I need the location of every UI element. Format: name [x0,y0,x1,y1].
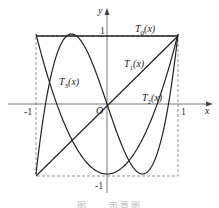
t3-arg: (x) [68,76,79,87]
t1-label: T1(x) [124,59,144,72]
t1-arg: (x) [133,58,144,69]
t2-label: T2(x) [142,93,162,106]
t2-arg: (x) [151,92,162,103]
t3-label: T3(x) [59,77,79,90]
chebyshev-plot [0,0,219,208]
y-tick-1: 1 [100,26,105,36]
x-axis-label: x [205,106,209,116]
t0-label: T0(x) [135,24,155,37]
y-tick-neg1: -1 [95,181,103,191]
y-axis-arrow-icon [105,8,110,15]
origin-label: O [96,106,103,116]
figure-caption: 图 … 示意图 [0,199,219,208]
x-tick-neg1: -1 [24,107,32,117]
x-tick-1: 1 [181,107,186,117]
y-axis-label: y [98,6,102,16]
t0-arg: (x) [144,23,155,34]
